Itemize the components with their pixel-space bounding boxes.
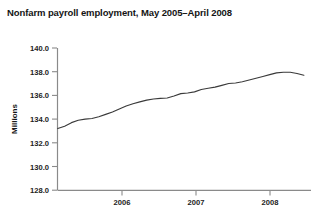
y-tick-label-134: 134.0	[30, 115, 49, 124]
y-tick-label-136: 136.0	[30, 91, 49, 100]
x-tick-label-2007: 2007	[188, 198, 205, 207]
data-line-nonfarm-payroll-employment	[58, 72, 304, 128]
x-tick-label-2008: 2008	[262, 198, 279, 207]
y-tick-label-128: 128.0	[30, 186, 49, 195]
x-tick-label-2006: 2006	[114, 198, 131, 207]
chart-plot-area: 140.0 138.0 136.0 134.0 132.0 130.0 128.…	[0, 0, 316, 222]
y-tick-label-138: 138.0	[30, 68, 49, 77]
y-tick-label-132: 132.0	[30, 139, 49, 148]
chart-figure: Nonfarm payroll employment, May 2005–Apr…	[0, 0, 316, 222]
y-tick-label-140: 140.0	[30, 44, 49, 53]
y-tick-label-130: 130.0	[30, 163, 49, 172]
y-axis-label: Millions	[10, 104, 19, 134]
